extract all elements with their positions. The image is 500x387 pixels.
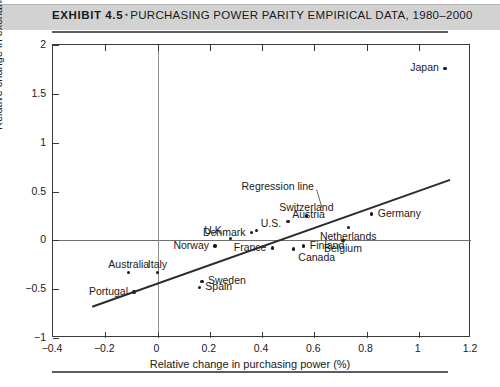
data-point-label: Australia — [108, 259, 149, 270]
data-point-label: Canada — [298, 252, 335, 263]
y-tick — [53, 338, 59, 339]
y-axis-title: Relative change in exchange rate (%) — [0, 0, 4, 130]
y-tick — [53, 240, 59, 241]
y-tick — [53, 94, 59, 95]
data-point-label: Italy — [148, 259, 167, 270]
x-tick-label: −0.4 — [27, 342, 77, 354]
y-tick-label: 0.5 — [6, 185, 46, 197]
y-tick — [53, 143, 59, 144]
x-tick-label: 0.4 — [236, 342, 286, 354]
data-point-label: Finland — [310, 240, 344, 251]
x-tick-label: −0.2 — [79, 342, 129, 354]
y-tick — [53, 45, 59, 46]
x-tick-label: 1 — [393, 342, 443, 354]
y-tick-label: 2 — [6, 38, 46, 50]
x-tick-label: 0 — [132, 342, 182, 354]
y-tick-label: 0 — [6, 233, 46, 245]
x-axis-title: Relative change in purchasing power (%) — [0, 358, 500, 370]
x-tick-top — [210, 45, 211, 51]
x-tick-label: 0.8 — [341, 342, 391, 354]
data-point-label: Norway — [173, 240, 209, 251]
data-point — [286, 220, 289, 223]
data-point — [302, 244, 305, 247]
data-point — [200, 280, 203, 283]
x-tick — [105, 332, 106, 338]
x-tick — [314, 332, 315, 338]
data-point — [198, 286, 201, 289]
x-tick — [262, 332, 263, 338]
y-tick — [53, 289, 59, 290]
x-tick-top — [367, 45, 368, 51]
data-point — [271, 246, 274, 249]
data-point — [213, 244, 216, 247]
data-point — [370, 212, 373, 215]
data-point-label: Spain — [205, 281, 232, 292]
x-tick — [158, 332, 159, 338]
x-tick-top — [419, 45, 420, 51]
data-point-label: Austria — [292, 209, 325, 220]
y-tick — [53, 192, 59, 193]
x-tick — [419, 332, 420, 338]
x-tick — [367, 332, 368, 338]
data-point — [255, 229, 258, 232]
zero-line-vertical — [158, 45, 159, 338]
data-point — [443, 67, 446, 70]
x-tick-label: 0.2 — [184, 342, 234, 354]
x-tick-label: 0.6 — [288, 342, 338, 354]
x-tick-top — [158, 45, 159, 51]
data-point-label: Germany — [378, 208, 421, 219]
data-point-label: France — [234, 242, 267, 253]
data-point — [132, 290, 135, 293]
chart-container: Relative change in exchange rate (%) Rel… — [0, 0, 500, 387]
y-tick-label: 1.5 — [6, 87, 46, 99]
data-point-label: U.K. — [204, 225, 224, 236]
y-tick-label: 1 — [6, 136, 46, 148]
x-tick-top — [105, 45, 106, 51]
data-point — [127, 271, 130, 274]
regression-line — [92, 180, 450, 307]
data-point — [250, 231, 253, 234]
data-point — [156, 271, 159, 274]
x-tick-top — [262, 45, 263, 51]
data-point — [292, 247, 295, 250]
data-point-label: Portugal — [89, 286, 128, 297]
x-tick — [210, 332, 211, 338]
regression-line-annotation: Regression line — [241, 180, 313, 192]
x-tick-top — [314, 45, 315, 51]
data-point-label: U.S. — [261, 218, 281, 229]
data-point-label: Japan — [410, 62, 439, 73]
y-tick-label: −0.5 — [6, 282, 46, 294]
x-tick-label: 1.2 — [445, 342, 495, 354]
plot-frame: JapanGermanySwitzerlandAustriaNetherland… — [52, 44, 470, 337]
